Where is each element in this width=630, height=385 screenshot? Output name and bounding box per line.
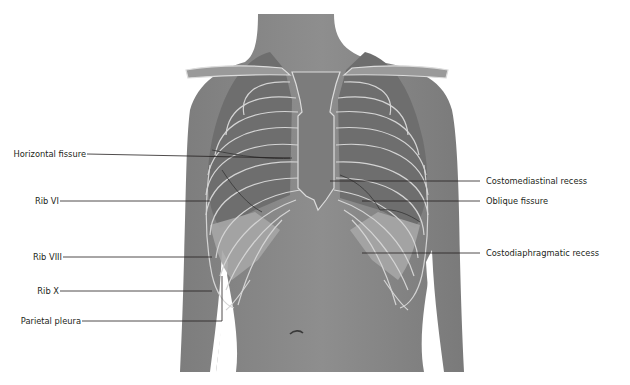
label-rib-x: Rib X [37, 286, 59, 296]
label-oblique-fissure: Oblique fissure [486, 196, 548, 206]
sternum [292, 72, 340, 210]
label-parietal-pleura: Parietal pleura [21, 316, 81, 326]
label-rib-viii: Rib VIII [33, 252, 62, 262]
label-costomediastinal-recess: Costomediastinal recess [486, 176, 587, 186]
label-rib-vi: Rib VI [35, 196, 59, 206]
label-horizontal-fissure: Horizontal fissure [14, 149, 86, 159]
label-costodiaphragmatic-recess: Costodiaphragmatic recess [486, 248, 599, 258]
thorax-illustration [0, 0, 630, 385]
